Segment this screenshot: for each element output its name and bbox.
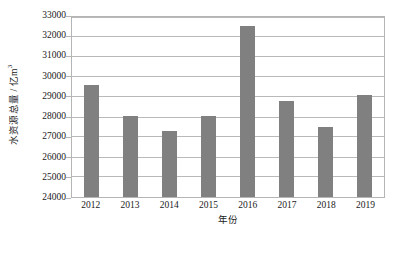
- bar-2014: [162, 131, 178, 197]
- bar-2019: [357, 95, 373, 197]
- bar-2013: [123, 116, 139, 197]
- bar-2017: [279, 101, 295, 197]
- bar-slot: [150, 17, 189, 197]
- y-axis-title-exponent: 3: [6, 65, 14, 69]
- bar-slot: [267, 17, 306, 197]
- y-axis-tick-label: 27000: [22, 133, 66, 143]
- bar-slot: [345, 17, 384, 197]
- x-axis-tick-label: 2018: [307, 201, 346, 211]
- y-axis-tick-labels: 2400025000260002700028000290003000031000…: [22, 16, 66, 198]
- x-axis-tick-label: 2012: [71, 201, 110, 211]
- bar-slot: [189, 17, 228, 197]
- y-axis-tick-label: 25000: [22, 173, 66, 183]
- bar-2018: [318, 127, 334, 197]
- x-axis-tick-label: 2019: [346, 201, 385, 211]
- x-axis-tick-label: 2013: [110, 201, 149, 211]
- x-axis-tick-label: 2017: [267, 201, 306, 211]
- x-axis-title: 年份: [71, 216, 385, 226]
- y-axis-tick-label: 31000: [22, 52, 66, 62]
- x-axis-tick-label: 2016: [228, 201, 267, 211]
- bar-2015: [201, 116, 217, 197]
- x-axis-tick-label: 2014: [150, 201, 189, 211]
- y-axis-tick-label: 32000: [22, 31, 66, 41]
- plot-area: [71, 16, 385, 198]
- bars-layer: [72, 17, 384, 197]
- y-axis-tick-label: 30000: [22, 72, 66, 82]
- y-axis-tick-label: 33000: [22, 11, 66, 21]
- bar-slot: [306, 17, 345, 197]
- bar-slot: [228, 17, 267, 197]
- x-axis-tick-label: 2015: [189, 201, 228, 211]
- bar-2016: [240, 26, 256, 197]
- bar-chart: 水资源总量 / 亿m3 2400025000260002700028000290…: [0, 0, 398, 255]
- y-axis-tick-label: 24000: [22, 193, 66, 203]
- bar-slot: [72, 17, 111, 197]
- bar-2012: [84, 85, 100, 197]
- y-axis-tick-label: 26000: [22, 153, 66, 163]
- y-axis-tick-label: 28000: [22, 112, 66, 122]
- y-axis-title-text: 水资源总量 / 亿m: [8, 68, 18, 145]
- x-axis-tick-labels: 20122013201420152016201720182019: [71, 201, 385, 211]
- y-axis-tick-label: 29000: [22, 92, 66, 102]
- bar-slot: [111, 17, 150, 197]
